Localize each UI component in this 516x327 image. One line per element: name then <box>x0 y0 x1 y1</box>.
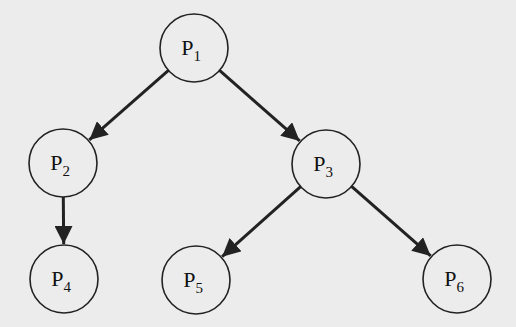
process-tree-diagram: P1P2P3P4P5P6 <box>0 0 516 327</box>
node-p2: P2 <box>29 129 97 197</box>
node-p6: P6 <box>423 245 491 313</box>
edges <box>63 70 430 256</box>
nodes: P1P2P3P4P5P6 <box>29 14 491 314</box>
node-p5: P5 <box>162 246 230 314</box>
edge-p3-p6 <box>352 186 431 255</box>
node-p3: P3 <box>292 130 360 198</box>
edge-p1-p2 <box>89 70 168 139</box>
node-p4: P4 <box>30 245 98 313</box>
node-p1: P1 <box>160 14 228 82</box>
edge-p3-p5 <box>222 187 301 257</box>
edge-p1-p3 <box>220 70 300 140</box>
